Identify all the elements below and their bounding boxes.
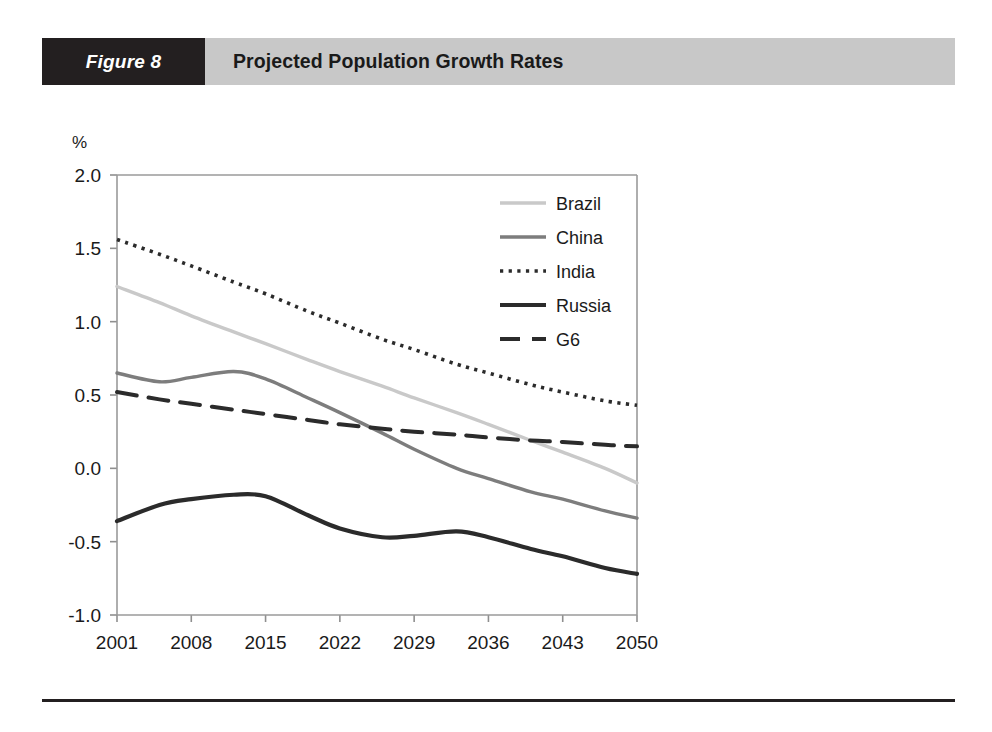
legend-label-brazil: Brazil	[556, 194, 601, 214]
y-tick-label: 0.5	[75, 385, 101, 406]
y-tick-label: 1.0	[75, 312, 101, 333]
chart-region: % 2.01.51.00.50.0-0.5-1.0 20012008201520…	[0, 85, 992, 685]
y-tick-label: -1.0	[68, 605, 101, 626]
legend-label-india: India	[556, 262, 596, 282]
y-tick-label: -0.5	[68, 532, 101, 553]
y-tick-label: 0.0	[75, 458, 101, 479]
legend-label-china: China	[556, 228, 604, 248]
legend-label-g6: G6	[556, 330, 580, 350]
series-line-russia	[117, 494, 637, 574]
figure-header: Figure 8 Projected Population Growth Rat…	[42, 38, 955, 85]
x-tick-label: 2022	[319, 632, 361, 653]
figure-title-label: Projected Population Growth Rates	[233, 50, 564, 73]
x-tick-label: 2036	[467, 632, 509, 653]
y-axis-ticks: 2.01.51.00.50.0-0.5-1.0	[68, 165, 117, 626]
x-tick-label: 2008	[170, 632, 212, 653]
figure-number-band: Figure 8	[42, 38, 205, 85]
series-group	[117, 240, 637, 574]
figure-title-band: Projected Population Growth Rates	[205, 38, 955, 85]
y-tick-label: 2.0	[75, 165, 101, 186]
x-tick-label: 2050	[616, 632, 658, 653]
x-tick-label: 2015	[244, 632, 286, 653]
series-line-china	[117, 372, 637, 519]
bottom-rule-divider	[42, 699, 955, 702]
x-tick-label: 2029	[393, 632, 435, 653]
figure-number-label: Figure 8	[86, 51, 162, 73]
x-tick-label: 2001	[96, 632, 138, 653]
line-chart: 2.01.51.00.50.0-0.5-1.0 2001200820152022…	[0, 85, 992, 685]
x-axis-ticks: 20012008201520222029203620432050	[96, 615, 658, 653]
chart-legend: BrazilChinaIndiaRussiaG6	[500, 194, 612, 350]
y-tick-label: 1.5	[75, 238, 101, 259]
x-tick-label: 2043	[542, 632, 584, 653]
legend-label-russia: Russia	[556, 296, 612, 316]
series-line-g6	[117, 392, 637, 446]
